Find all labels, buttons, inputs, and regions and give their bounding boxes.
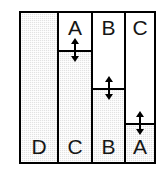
segment-label-lower-1: D [21,136,57,157]
bar-segment-upper-4[interactable]: C [126,13,154,125]
segment-label-upper-3: B [93,17,124,38]
bar-column-4[interactable]: C A [126,13,154,162]
bar-column-2[interactable]: A C [59,13,93,162]
bar-segment-lower-2[interactable]: C [59,52,91,162]
bar-segment-upper-3[interactable]: B [93,13,124,90]
chart-frame: D A C B [19,11,156,164]
diagram-canvas: D A C B [0,0,164,176]
bar-column-3[interactable]: B B [93,13,126,162]
segment-label-upper-2: A [59,17,91,38]
bar-segment-lower-3[interactable]: B [93,90,124,162]
bar-segment-lower-1[interactable]: D [21,13,57,162]
bar-segment-upper-2[interactable]: A [59,13,91,52]
segment-label-lower-4: A [126,136,154,157]
segment-label-lower-2: C [59,136,91,157]
bar-segment-lower-4[interactable]: A [126,125,154,162]
segment-label-lower-3: B [93,136,124,157]
segment-label-upper-4: C [126,17,154,38]
bar-column-1[interactable]: D [21,13,59,162]
